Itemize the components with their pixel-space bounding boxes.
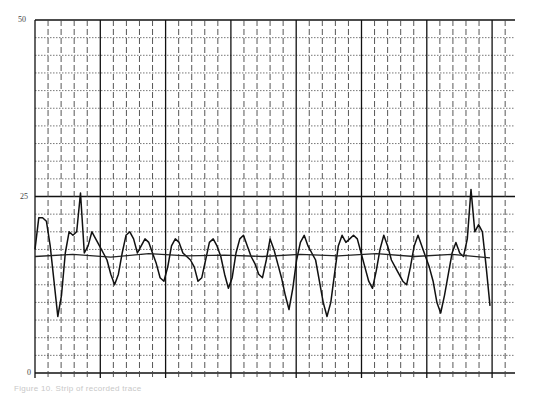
figure-caption: Figure 10. Strip of recorded trace [14,384,142,393]
y-tick-label-bottom: 0 [27,368,31,377]
y-tick-label-top: 50 [18,15,26,24]
chart-grid [35,20,515,378]
line-chart [0,0,534,395]
y-tick-label-mid: 25 [20,192,28,201]
chart-traces [35,189,490,316]
